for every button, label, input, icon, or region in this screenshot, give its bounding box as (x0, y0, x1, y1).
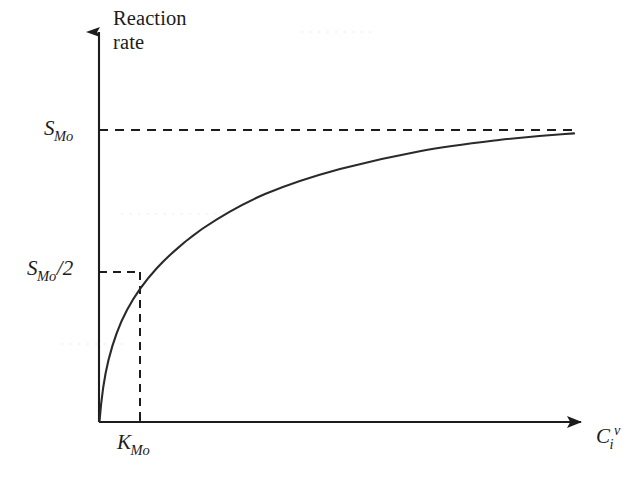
label-kmo-subscript: Mo (131, 442, 150, 458)
x-axis-label-superscript: v (614, 423, 620, 438)
x-axis-label-base: C (596, 424, 610, 448)
figure-canvas: . . . . . . . . . . . . . . . . . . . . … (0, 0, 643, 488)
y-axis-title: Reaction rate (113, 6, 187, 54)
y-axis-title-line2: rate (113, 30, 187, 54)
label-smo-half-base: S (27, 256, 38, 280)
plot-area (0, 0, 643, 488)
x-axis-label: Civ (596, 424, 620, 449)
label-smo-half-subscript: Mo (37, 268, 56, 284)
label-kmo: KMo (117, 430, 150, 455)
label-smo-base: S (44, 116, 55, 140)
x-axis-label-subscript: i (610, 436, 614, 452)
reaction-rate-curve (100, 133, 575, 421)
label-smo: SMo (44, 116, 74, 141)
label-smo-half-suffix: /2 (57, 256, 73, 280)
label-kmo-base: K (117, 430, 131, 454)
y-axis-title-line1: Reaction (113, 6, 187, 30)
label-smo-subscript: Mo (54, 128, 73, 144)
label-smo-half: SMo/2 (27, 256, 73, 281)
